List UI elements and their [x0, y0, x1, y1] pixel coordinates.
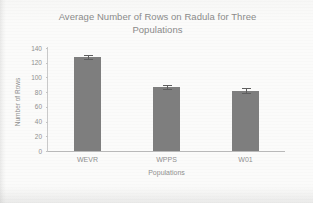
- chart-title: Average Number of Rows on Radula for Thr…: [30, 10, 285, 36]
- error-bar-cap-lower: [84, 59, 93, 60]
- y-axis-tick-mark: [46, 151, 48, 152]
- chart-title-line-1: Average Number of Rows on Radula for Thr…: [30, 10, 285, 23]
- y-axis-tick-label: 140: [12, 44, 42, 53]
- y-axis-tick-mark: [46, 92, 48, 93]
- y-axis-tick-mark: [46, 107, 48, 108]
- y-axis-tick-label: 40: [12, 117, 42, 126]
- x-axis-tick-label: WEVR: [53, 156, 123, 163]
- error-bar-cap-lower: [163, 89, 172, 90]
- y-axis-tick-label: 120: [12, 58, 42, 67]
- y-axis-tick-label: 0: [12, 147, 42, 156]
- y-axis-tick-mark: [46, 136, 48, 137]
- y-axis-tick-mark: [46, 63, 48, 64]
- bar-w01: [232, 91, 259, 151]
- x-axis-tick-label: W01: [211, 156, 281, 163]
- x-axis-line: [47, 151, 285, 152]
- error-bar-cap-upper: [84, 55, 93, 56]
- x-axis-tick-label: WPPS: [132, 156, 202, 163]
- error-bar-cap-upper: [242, 88, 251, 89]
- error-bar-cap-upper: [163, 85, 172, 86]
- scan-edge-shadow-bottom: [0, 187, 313, 203]
- chart-page: Average Number of Rows on Radula for Thr…: [0, 0, 313, 203]
- bar-wevr: [74, 57, 101, 151]
- y-axis-tick-label: 20: [12, 132, 42, 141]
- error-bar-cap-lower: [242, 93, 251, 94]
- y-axis-tick-mark: [46, 77, 48, 78]
- y-axis-tick-label: 80: [12, 88, 42, 97]
- chart-title-line-2: Populations: [30, 23, 285, 36]
- bar-wpps: [153, 87, 180, 151]
- y-axis-tick-mark: [46, 122, 48, 123]
- x-axis-label: Populations: [48, 169, 285, 176]
- y-axis-tick-label: 100: [12, 73, 42, 82]
- y-axis-tick-mark: [46, 48, 48, 49]
- scan-edge-shadow-left: [0, 0, 6, 203]
- y-axis-tick-label: 60: [12, 102, 42, 111]
